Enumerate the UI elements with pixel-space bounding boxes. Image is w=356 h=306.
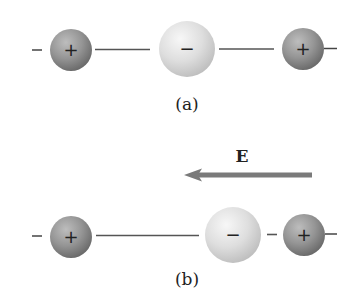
- right-positive-atom: +: [283, 214, 325, 256]
- left-positive-atom: +: [50, 29, 92, 71]
- center-atom-sign: −: [179, 38, 194, 59]
- right-atom-sign: +: [296, 224, 311, 245]
- molecule-polarization-diagram: + − + (a) E +: [0, 0, 356, 306]
- panel-b-label: (b): [175, 269, 199, 289]
- right-positive-atom: +: [282, 28, 324, 70]
- panel-a: + − + (a): [32, 21, 337, 114]
- left-positive-atom: +: [50, 216, 92, 258]
- panel-a-label: (a): [175, 94, 198, 114]
- electric-field-label: E: [236, 146, 249, 166]
- left-atom-sign: +: [63, 39, 78, 60]
- center-negative-atom: −: [159, 21, 215, 77]
- right-atom-sign: +: [295, 38, 310, 59]
- center-atom-sign: −: [225, 224, 240, 245]
- panel-b: E + − + (b): [32, 146, 337, 289]
- center-negative-atom: −: [205, 207, 261, 263]
- left-atom-sign: +: [63, 226, 78, 247]
- electric-field-arrow-icon: [184, 169, 312, 182]
